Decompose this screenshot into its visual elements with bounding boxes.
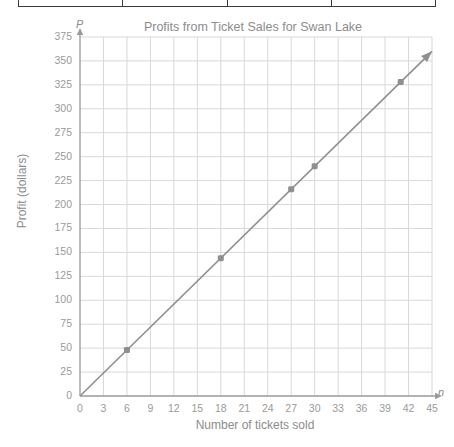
table-cell — [123, 0, 227, 7]
x-tick-label: 24 — [255, 402, 281, 414]
x-tick-label: 39 — [372, 402, 398, 414]
y-tick-label: 225 — [38, 174, 72, 186]
y-tick-label: 250 — [38, 150, 72, 162]
partial-table-strip — [18, 0, 436, 7]
table-cell — [332, 0, 436, 7]
x-tick-label: 0 — [67, 402, 93, 414]
series-line — [80, 51, 432, 396]
x-tick-label: 30 — [302, 402, 328, 414]
y-tick-label: 175 — [38, 221, 72, 233]
x-tick-label: 15 — [184, 402, 210, 414]
y-tick-label: 150 — [38, 245, 72, 257]
x-tick-label: 18 — [208, 402, 234, 414]
x-tick-label: 12 — [161, 402, 187, 414]
y-tick-label: 350 — [38, 54, 72, 66]
x-tick-label: 33 — [325, 402, 351, 414]
table-cell — [228, 0, 332, 7]
y-tick-label: 300 — [38, 102, 72, 114]
x-tick-label: 45 — [419, 402, 445, 414]
x-tick-label: 36 — [349, 402, 375, 414]
x-tick-label: 9 — [137, 402, 163, 414]
y-tick-label: 25 — [38, 365, 72, 377]
chart-figure: Profits from Ticket Sales for Swan Lake … — [0, 14, 454, 447]
table-cell — [18, 0, 123, 7]
x-tick-label: 42 — [396, 402, 422, 414]
y-tick-label: 200 — [38, 198, 72, 210]
y-tick-label: 125 — [38, 269, 72, 281]
x-tick-label: 27 — [278, 402, 304, 414]
y-tick-label: 0 — [38, 389, 72, 401]
x-tick-label: 3 — [90, 402, 116, 414]
y-tick-label: 275 — [38, 126, 72, 138]
grid-lines — [80, 37, 432, 396]
y-tick-label: 325 — [38, 78, 72, 90]
y-tick-label: 75 — [38, 317, 72, 329]
x-tick-label: 6 — [114, 402, 140, 414]
x-tick-label: 21 — [231, 402, 257, 414]
y-tick-label: 375 — [38, 30, 72, 42]
y-tick-label: 100 — [38, 293, 72, 305]
y-tick-label: 50 — [38, 341, 72, 353]
axis-lines — [77, 28, 442, 399]
